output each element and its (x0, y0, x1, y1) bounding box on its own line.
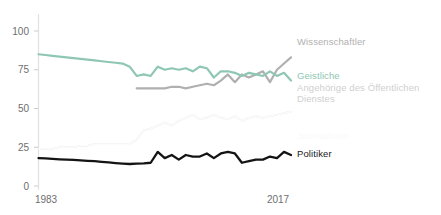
x-axis-label: 2017 (267, 194, 290, 205)
y-axis-group (34, 14, 39, 190)
series-line-politiker (39, 152, 292, 164)
line-chart: 0255075100 19832017 WissenschaftlerGeist… (0, 0, 441, 215)
chart-svg: 0255075100 19832017 (0, 0, 441, 215)
y-axis-label: 50 (18, 103, 30, 114)
y-axis-label: 25 (18, 142, 30, 153)
legend-label-geistliche: Geistliche (297, 70, 340, 81)
series-line-journalisten (39, 112, 292, 149)
y-axis-label: 75 (18, 64, 30, 75)
x-axis-label: 1983 (35, 194, 58, 205)
legend-label-politiker: Politiker (297, 148, 332, 159)
y-axis-label: 0 (23, 181, 29, 192)
legend-label-angehörige-des-öffentlichen: Angehörige des Öffentlichen Dienstes (297, 82, 419, 104)
y-tick-labels: 0255075100 (12, 26, 29, 192)
data-series-group (39, 54, 292, 164)
legend-label-wissenschaftler: Wissenschaftler (297, 36, 366, 47)
x-tick-labels: 19832017 (35, 194, 290, 205)
y-axis-label: 100 (12, 26, 29, 37)
legend-label-journalisten: Journalisten (297, 130, 349, 141)
